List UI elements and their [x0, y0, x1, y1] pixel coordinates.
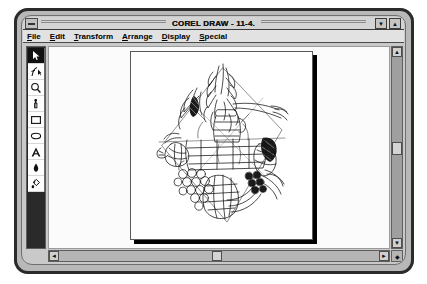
- pick-tool-icon[interactable]: [28, 48, 44, 64]
- toolbox: [26, 46, 46, 249]
- scroll-up-icon: ▲: [394, 49, 400, 55]
- menu-item-edit[interactable]: Edit: [50, 31, 65, 42]
- scroll-left-button[interactable]: ◄: [49, 251, 59, 261]
- menu-item-special[interactable]: Special: [199, 31, 227, 42]
- fill-tool-icon[interactable]: [28, 176, 44, 192]
- menu-item-arrange[interactable]: Arrange: [122, 31, 153, 42]
- scroll-down-icon: ▼: [394, 240, 400, 246]
- pencil-tool-icon[interactable]: [28, 96, 44, 112]
- menu-item-transform[interactable]: Transform: [74, 31, 113, 42]
- vertical-scrollbar-thumb[interactable]: [392, 142, 402, 155]
- menu-item-file[interactable]: File: [27, 31, 41, 42]
- shape-node-tool-icon[interactable]: [28, 64, 44, 80]
- work-region: ▲ ▼ ◄ ►: [23, 44, 404, 263]
- window-inner-frame: COREL DRAW - 11-4. ▼ ▲ File Edit Transfo…: [21, 15, 406, 265]
- scroll-left-icon: ◄: [51, 253, 57, 259]
- window-title-text: COREL DRAW - 11-4.: [166, 19, 261, 28]
- scrollbar-corner: ◆: [391, 250, 403, 262]
- text-tool-icon[interactable]: [28, 144, 44, 160]
- window-title: COREL DRAW - 11-4.: [23, 18, 404, 29]
- zoom-tool-icon[interactable]: [28, 80, 44, 96]
- drawing-page[interactable]: [130, 51, 313, 240]
- rectangle-tool-icon[interactable]: [28, 112, 44, 128]
- scroll-right-icon: ►: [381, 253, 387, 259]
- fruit-and-vegetable-wireframe-drawing[interactable]: [131, 52, 313, 240]
- horizontal-scrollbar[interactable]: ◄ ►: [48, 250, 390, 262]
- maximize-button[interactable]: ▲: [389, 18, 401, 29]
- vertical-scrollbar[interactable]: ▲ ▼: [391, 46, 403, 249]
- maximize-icon: ▲: [392, 21, 398, 27]
- menu-bar: File Edit Transform Arrange Display Spec…: [23, 30, 404, 43]
- drawing-canvas[interactable]: [48, 46, 390, 249]
- scroll-right-button[interactable]: ►: [379, 251, 389, 261]
- scroll-down-button[interactable]: ▼: [392, 238, 402, 248]
- ellipse-tool-icon[interactable]: [28, 128, 44, 144]
- title-bar: COREL DRAW - 11-4. ▼ ▲: [23, 17, 404, 30]
- menu-item-display[interactable]: Display: [162, 31, 190, 42]
- minimize-button[interactable]: ▼: [375, 18, 387, 29]
- corner-icon: ◆: [395, 253, 400, 260]
- window-outer-frame: COREL DRAW - 11-4. ▼ ▲ File Edit Transfo…: [14, 8, 414, 274]
- horizontal-scrollbar-thumb[interactable]: [212, 251, 222, 261]
- application-window: COREL DRAW - 11-4. ▼ ▲ File Edit Transfo…: [14, 8, 414, 274]
- tool-stack: [28, 48, 45, 192]
- scroll-up-button[interactable]: ▲: [392, 47, 402, 57]
- outline-pen-tool-icon[interactable]: [28, 160, 44, 176]
- minimize-icon: ▼: [378, 21, 384, 27]
